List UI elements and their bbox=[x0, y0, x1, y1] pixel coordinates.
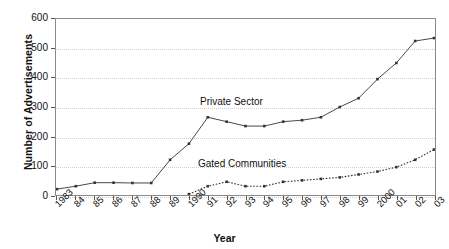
x-axis-tick-label: 03 bbox=[432, 195, 447, 210]
y-axis-tick bbox=[51, 196, 55, 197]
data-point-marker bbox=[301, 119, 304, 122]
data-point-marker bbox=[433, 148, 435, 151]
data-point-marker bbox=[357, 97, 360, 100]
data-point-marker bbox=[244, 125, 247, 128]
data-point-marker bbox=[414, 159, 417, 162]
y-axis-tick-label: 300 bbox=[4, 102, 48, 112]
plot-area bbox=[55, 18, 436, 196]
y-axis-tick-label: 0 bbox=[4, 191, 48, 201]
data-point-marker bbox=[244, 185, 247, 188]
annotation-private-sector: Private Sector bbox=[200, 96, 263, 107]
y-axis-tick-label: 600 bbox=[4, 13, 48, 23]
data-point-marker bbox=[282, 120, 285, 123]
data-point-marker bbox=[225, 120, 228, 123]
data-point-marker bbox=[301, 179, 304, 182]
y-axis-tick-label: 200 bbox=[4, 132, 48, 142]
y-axis-tick-label: 100 bbox=[4, 161, 48, 171]
data-point-marker bbox=[395, 166, 398, 169]
data-point-marker bbox=[75, 185, 78, 188]
data-point-marker bbox=[395, 62, 398, 65]
data-point-marker bbox=[169, 159, 172, 162]
data-point-marker bbox=[282, 181, 285, 184]
data-point-marker bbox=[338, 176, 341, 179]
x-axis-title: Year bbox=[0, 232, 449, 244]
data-point-marker bbox=[93, 181, 96, 184]
line-chart: Number of Advertisements 010020030040050… bbox=[0, 0, 449, 249]
data-point-marker bbox=[320, 116, 323, 119]
data-point-marker bbox=[357, 173, 360, 176]
data-point-marker bbox=[188, 193, 191, 195]
data-point-marker bbox=[338, 106, 341, 109]
data-point-marker bbox=[414, 40, 417, 43]
annotation-gated-communities: Gated Communities bbox=[198, 158, 286, 169]
data-point-marker bbox=[320, 178, 323, 181]
data-point-marker bbox=[263, 125, 266, 128]
data-point-marker bbox=[433, 37, 435, 40]
data-point-marker bbox=[131, 182, 134, 185]
data-point-marker bbox=[207, 116, 210, 119]
data-point-marker bbox=[56, 188, 58, 191]
data-point-marker bbox=[376, 170, 379, 173]
data-point-marker bbox=[263, 185, 266, 188]
data-point-marker bbox=[207, 185, 210, 188]
series-line-2 bbox=[189, 150, 434, 195]
data-point-marker bbox=[225, 181, 228, 184]
data-point-marker bbox=[112, 181, 115, 184]
y-axis-tick-label: 500 bbox=[4, 43, 48, 53]
y-axis-tick-label: 400 bbox=[4, 72, 48, 82]
data-point-marker bbox=[188, 142, 191, 145]
data-point-marker bbox=[376, 78, 379, 81]
data-point-marker bbox=[150, 182, 153, 185]
